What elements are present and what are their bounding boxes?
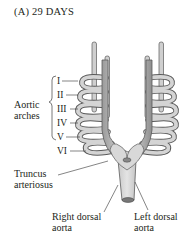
arches-brace [49, 76, 56, 140]
aortic-arches-diagram [0, 0, 193, 246]
arch-label-III: III [57, 104, 67, 114]
arch-label-V: V [57, 132, 64, 142]
right-dorsal-aorta-label: Right dorsal aorta [52, 212, 101, 233]
left-dorsal-aorta-label: Left dorsal aorta [134, 212, 178, 233]
truncus-arteriosus-label: Truncus arteriosus [14, 169, 53, 190]
arch-label-II: II [57, 90, 63, 100]
aortic-arches-label: Aortic arches [14, 100, 40, 121]
arch-label-VI: VI [57, 146, 67, 156]
truncus-arteriosus-shape [110, 144, 144, 170]
arch-label-IV: IV [57, 118, 67, 128]
arch-label-I: I [57, 76, 60, 86]
